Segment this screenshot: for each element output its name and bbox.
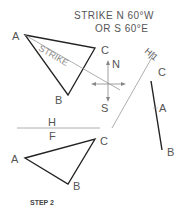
edge-label-b: B bbox=[167, 146, 174, 158]
strike-label: STRIKE bbox=[37, 43, 70, 68]
compass-rose: N S bbox=[91, 58, 126, 114]
north-arrow-icon bbox=[106, 60, 110, 65]
top-vertex-b: B bbox=[55, 94, 62, 106]
top-vertex-a: A bbox=[12, 30, 20, 42]
edge-label-a: A bbox=[159, 102, 167, 114]
strike-title-line1: STRIKE N 60°W bbox=[74, 10, 154, 21]
compass-north-label: N bbox=[112, 58, 120, 70]
fold-hf-below-label: F bbox=[49, 130, 56, 142]
compass-south-label: S bbox=[101, 102, 108, 114]
west-arrow-icon bbox=[91, 82, 96, 86]
front-vertex-b: B bbox=[73, 180, 80, 192]
strike-title-line2: OR S 60°E bbox=[95, 23, 149, 34]
step-caption: STEP 2 bbox=[30, 199, 54, 206]
front-vertex-a: A bbox=[11, 153, 19, 165]
fold-line-hf: H F bbox=[17, 116, 100, 142]
front-view-triangle: A C B bbox=[11, 135, 108, 192]
descriptive-geometry-diagram: STRIKE N 60°W OR S 60°E STRIKE A C B N S… bbox=[0, 0, 183, 217]
fold-hf-above-label: H bbox=[48, 116, 56, 128]
east-arrow-icon bbox=[121, 82, 126, 86]
edge-view: C A B bbox=[151, 66, 174, 158]
front-vertex-c: C bbox=[100, 135, 108, 147]
top-vertex-c: C bbox=[101, 44, 109, 56]
fold-h1-label: H|1 bbox=[143, 46, 160, 63]
edge-label-c: C bbox=[158, 66, 166, 78]
top-view-triangle: STRIKE A C B bbox=[12, 30, 120, 106]
